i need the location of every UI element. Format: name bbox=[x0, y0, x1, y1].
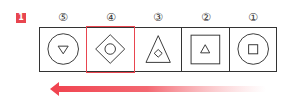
index-label-3: ③ bbox=[151, 11, 165, 25]
shape-sequence-strip bbox=[39, 27, 277, 72]
circle-with-square-icon bbox=[230, 28, 276, 71]
cell-5 bbox=[40, 28, 87, 71]
circle-with-down-triangle-icon bbox=[40, 28, 86, 71]
question-number-badge: 1 bbox=[16, 13, 26, 23]
triangle-with-diamond-icon bbox=[135, 28, 181, 71]
square-with-triangle-icon bbox=[182, 28, 228, 71]
cell-2 bbox=[182, 28, 229, 71]
cell-3 bbox=[135, 28, 182, 71]
index-label-1: ① bbox=[246, 11, 260, 25]
index-label-4: ④ bbox=[104, 11, 118, 25]
cell-1 bbox=[230, 28, 276, 71]
highlight-box bbox=[86, 26, 135, 73]
left-arrow-icon bbox=[50, 82, 266, 96]
index-label-5: ⑤ bbox=[56, 11, 70, 25]
index-label-2: ② bbox=[199, 11, 213, 25]
